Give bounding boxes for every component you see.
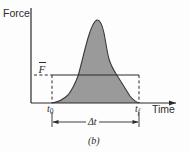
x-axis-label: Time xyxy=(152,104,175,115)
delta-t-arrowhead-right xyxy=(133,120,139,124)
t-start-label: t0 xyxy=(47,104,54,115)
impulse-force-time-figure: Force Time F t0 tf Δt (b) xyxy=(0,0,189,153)
average-force-symbol: F xyxy=(39,64,46,75)
y-axis-label: Force xyxy=(3,8,30,19)
average-force-label: F xyxy=(38,62,46,75)
force-time-plot xyxy=(0,0,189,153)
figure-caption: (b) xyxy=(88,136,100,146)
delta-t-label: Δt xyxy=(86,117,99,127)
delta-t-arrowhead-left xyxy=(53,120,59,124)
t-start-subscript: 0 xyxy=(50,107,54,116)
t-end-subscript: f xyxy=(138,107,140,116)
t-end-label: tf xyxy=(135,104,140,115)
